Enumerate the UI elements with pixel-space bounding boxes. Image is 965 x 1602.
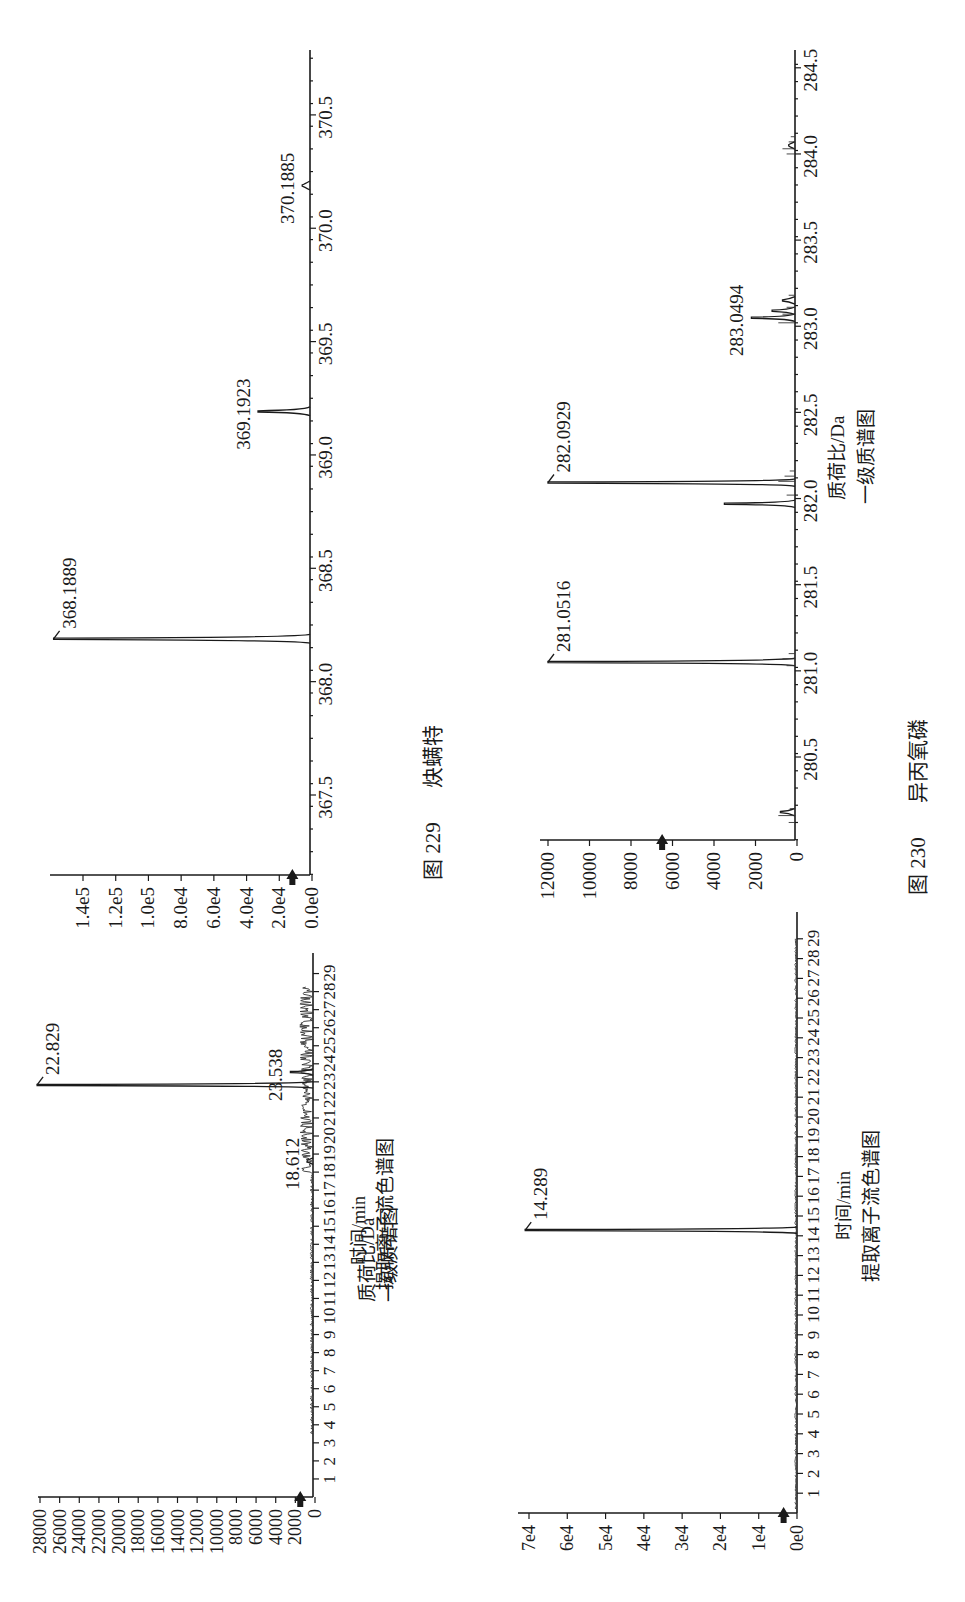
threshold-arrow-icon xyxy=(286,869,298,885)
x-tick-label: 6 xyxy=(320,1385,339,1394)
peak-spike xyxy=(525,1227,797,1234)
x-tick-label: 281.0 xyxy=(800,652,821,695)
x-tick-label: 27 xyxy=(320,1000,339,1018)
fig229-ch-axis-titles: 时间/min xyxy=(349,1196,369,1265)
threshold-arrow-icon xyxy=(294,1491,306,1507)
x-tick-label: 17 xyxy=(804,1167,823,1185)
x-tick-label: 15 xyxy=(320,1217,339,1234)
peak-label: 370.1885 xyxy=(277,153,298,224)
x-tick-label: 3 xyxy=(320,1439,339,1448)
x-tick-label: 19 xyxy=(320,1145,339,1162)
peak-spike xyxy=(258,407,310,416)
fig230-chromatogram: 1234567891011121314151617181920212223242… xyxy=(518,912,823,1551)
threshold-arrow-icon xyxy=(656,834,668,850)
x-tick-label: 370.5 xyxy=(315,96,336,139)
fig229-mass-spectrum: 367.5368.0368.5369.0369.5370.0370.50.0e0… xyxy=(50,50,336,929)
y-tick-label: 1.0e5 xyxy=(137,887,158,929)
y-tick-label: 1e4 xyxy=(749,1525,769,1551)
peak-label: 368.1889 xyxy=(59,558,80,629)
x-tick-label: 21 xyxy=(804,1088,823,1105)
x-tick-label: 1 xyxy=(320,1475,339,1484)
x-tick-label: 370.0 xyxy=(315,209,336,252)
fig229-ch-xlabel: 时间/min xyxy=(349,1196,369,1265)
x-tick-label: 7 xyxy=(320,1366,339,1375)
x-tick-label: 281.5 xyxy=(800,566,821,609)
x-tick-label: 29 xyxy=(320,965,339,982)
x-tick-label: 26 xyxy=(320,1019,339,1036)
x-tick-label: 5 xyxy=(320,1403,339,1412)
peak-spike xyxy=(290,1069,313,1076)
fig230-ms-xlabel: 质荷比/Da xyxy=(827,415,848,500)
peak-spike xyxy=(54,634,310,643)
y-tick-label: 16000 xyxy=(148,1509,168,1554)
peak-spike xyxy=(780,808,795,816)
x-tick-label: 19 xyxy=(804,1128,823,1145)
y-tick-label: 0e0 xyxy=(787,1525,807,1551)
x-tick-label: 20 xyxy=(804,1108,823,1125)
x-tick-label: 9 xyxy=(804,1331,823,1340)
x-tick-label: 25 xyxy=(320,1037,339,1054)
x-tick-label: 282.5 xyxy=(800,393,821,436)
x-tick-label: 20 xyxy=(320,1127,339,1144)
fig229-chromatogram: 1234567891011121314151617181920212223242… xyxy=(30,953,339,1554)
y-tick-label: 10000 xyxy=(579,852,600,900)
x-tick-label: 22 xyxy=(804,1068,823,1085)
y-tick-label: 3e4 xyxy=(672,1525,692,1551)
x-tick-label: 8 xyxy=(804,1351,823,1360)
peak-label: 22.829 xyxy=(42,1023,63,1075)
y-tick-label: 5e4 xyxy=(596,1525,616,1551)
y-tick-label: 4e4 xyxy=(634,1525,654,1551)
y-tick-label: 28000 xyxy=(30,1509,50,1554)
x-tick-label: 24 xyxy=(804,1028,823,1046)
x-tick-label: 10 xyxy=(804,1306,823,1323)
y-tick-label: 14000 xyxy=(168,1509,188,1554)
y-tick-label: 10000 xyxy=(207,1509,227,1554)
fig230-ms-title-wrap: 一级质谱图 xyxy=(856,409,877,504)
peak-spike xyxy=(302,181,310,190)
y-tick-label: 8000 xyxy=(620,852,641,890)
x-tick-label: 284.5 xyxy=(800,49,821,92)
fig230-caption-name: 异丙氧磷 xyxy=(906,719,930,803)
y-tick-label: 2000 xyxy=(745,852,766,890)
baseline-noise xyxy=(300,987,314,1434)
fig230-ch-title: 提取离子流色谱图 xyxy=(861,1130,882,1282)
y-tick-label: 2000 xyxy=(285,1509,305,1545)
x-tick-label: 4 xyxy=(804,1429,823,1438)
x-tick-label: 2 xyxy=(320,1457,339,1466)
x-tick-label: 28 xyxy=(320,983,339,1000)
peak-spike xyxy=(772,307,795,315)
x-tick-label: 3 xyxy=(804,1450,823,1459)
x-tick-label: 22 xyxy=(320,1091,339,1108)
peak-spike xyxy=(548,658,795,666)
fig230-ch-axis-titles: 时间/min xyxy=(834,1171,854,1240)
y-tick-label: 6000 xyxy=(246,1509,266,1545)
x-tick-label: 16 xyxy=(320,1199,339,1216)
peak-spike xyxy=(724,500,795,508)
x-tick-label: 369.5 xyxy=(315,323,336,366)
y-tick-label: 22000 xyxy=(89,1509,109,1554)
y-tick-label: 12000 xyxy=(537,852,558,900)
fig229-caption: 图 229 炔螨特 xyxy=(421,725,445,880)
x-tick-label: 17 xyxy=(320,1181,339,1199)
x-tick-label: 369.0 xyxy=(315,436,336,479)
peak-label: 18.612 xyxy=(282,1138,303,1190)
y-tick-label: 4000 xyxy=(266,1509,286,1545)
x-tick-label: 284.0 xyxy=(800,135,821,178)
fig230-ms-axis-titles: 质荷比/Da xyxy=(827,415,848,500)
fig230-ch-title-wrap: 提取离子流色谱图 xyxy=(861,1130,882,1282)
x-tick-label: 24 xyxy=(320,1054,339,1072)
x-tick-label: 4 xyxy=(320,1420,339,1429)
y-tick-label: 4000 xyxy=(703,852,724,890)
x-tick-label: 11 xyxy=(804,1287,823,1303)
x-tick-label: 283.0 xyxy=(800,307,821,350)
peak-spike xyxy=(751,314,795,322)
x-tick-label: 13 xyxy=(320,1253,339,1270)
y-tick-label: 2e4 xyxy=(710,1525,730,1551)
fig230-mass-spectrum: 280.5281.0281.5282.0282.5283.0283.5284.0… xyxy=(537,49,821,900)
fig229-caption-number: 图 229 xyxy=(421,822,445,880)
x-tick-label: 26 xyxy=(804,989,823,1006)
y-tick-label: 7e4 xyxy=(519,1525,539,1551)
x-tick-label: 16 xyxy=(804,1187,823,1204)
x-tick-label: 15 xyxy=(804,1207,823,1224)
y-tick-label: 2.0e4 xyxy=(268,887,289,929)
